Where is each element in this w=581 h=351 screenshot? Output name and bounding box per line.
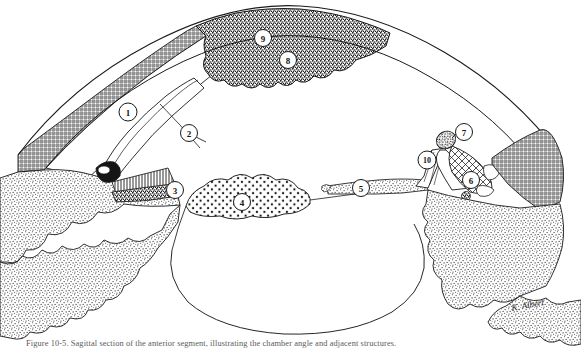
callout-label-10: 10	[423, 156, 431, 165]
callout-6[interactable]: 6	[463, 172, 480, 189]
callout-label-8: 8	[286, 56, 291, 66]
callout-4[interactable]: 4	[234, 194, 251, 211]
callout-7[interactable]: 7	[456, 124, 473, 141]
callout-9[interactable]: 9	[255, 30, 272, 47]
anatomical-diagram: 1 2 3 4 5 6 7	[0, 0, 581, 351]
figure-caption: Figure 10-5. Sagittal section of the ant…	[26, 338, 566, 351]
callout-label-2: 2	[187, 129, 192, 139]
callout-label-4: 4	[240, 198, 245, 208]
left-pocket-highlight	[98, 166, 110, 174]
callout-label-6: 6	[469, 176, 474, 186]
callout-label-9: 9	[261, 34, 266, 44]
callout-label-1: 1	[126, 108, 131, 118]
callout-label-5: 5	[359, 184, 364, 194]
figure-container: 1 2 3 4 5 6 7	[0, 0, 581, 351]
callout-2[interactable]: 2	[181, 125, 198, 142]
callout-label-3: 3	[173, 186, 178, 196]
callout-8[interactable]: 8	[280, 52, 297, 69]
callout-10[interactable]: 10	[418, 151, 436, 169]
callout-3[interactable]: 3	[167, 182, 184, 199]
callout-1[interactable]: 1	[119, 103, 137, 121]
callout-5[interactable]: 5	[353, 180, 370, 197]
callout-label-7: 7	[462, 128, 467, 138]
